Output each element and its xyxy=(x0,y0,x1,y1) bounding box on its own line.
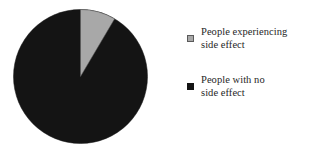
pie-chart-svg xyxy=(13,9,148,144)
legend-square-gray-icon xyxy=(187,35,194,42)
legend-item-people-experiencing-side-effect[interactable]: People experiencing side effect xyxy=(187,26,307,52)
legend-item-label: People with no side effect xyxy=(201,74,307,99)
pie-chart-figure: People experiencing side effect People w… xyxy=(0,0,310,149)
legend-item-label: People experiencing side effect xyxy=(201,26,307,51)
legend-square-black-icon xyxy=(187,83,194,90)
legend-item-people-with-no-side-effect[interactable]: People with no side effect xyxy=(187,74,307,100)
pie-chart-plot-area xyxy=(13,9,148,144)
chart-legend: People experiencing side effect People w… xyxy=(187,26,307,100)
